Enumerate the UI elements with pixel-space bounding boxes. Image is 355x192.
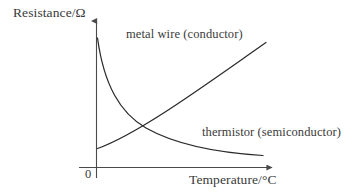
metal-wire-series-label: metal wire (conductor)	[126, 28, 243, 41]
x-axis-label: Temperature/°C	[189, 173, 277, 187]
origin-tick-label: 0	[85, 168, 91, 181]
y-axis-label: Resistance/Ω	[13, 6, 86, 20]
resistance-temperature-chart: Resistance/Ω Temperature/°C metal wire (…	[0, 0, 355, 192]
thermistor-series-label: thermistor (semiconductor)	[202, 126, 341, 139]
